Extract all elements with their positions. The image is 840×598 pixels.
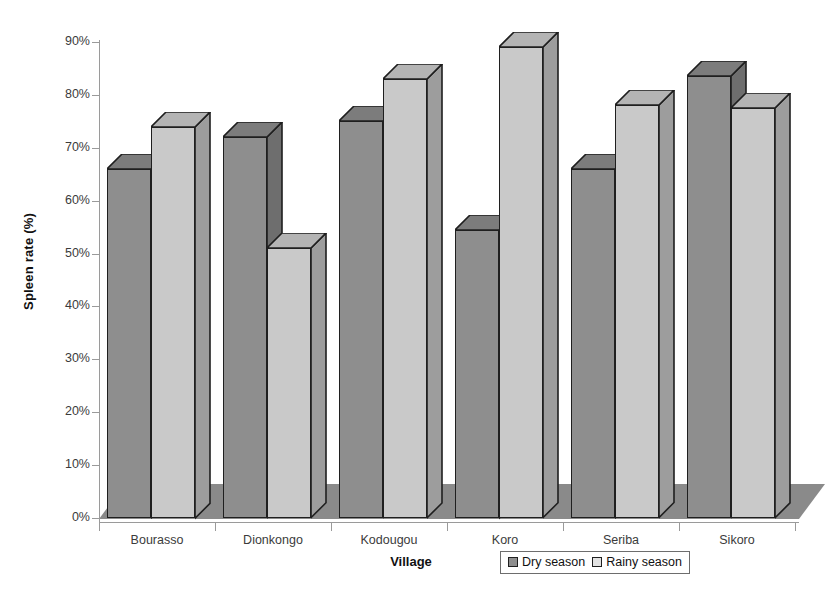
y-axis-tick <box>92 518 100 519</box>
y-axis-tick-label: 20% <box>30 404 90 418</box>
legend-item-rainy-season: Rainy season <box>592 555 682 569</box>
bar-front-face <box>267 248 311 518</box>
bar-front-face <box>339 121 383 518</box>
x-axis-tick-label: Dionkongo <box>213 533 333 547</box>
x-axis-tick-label: Koro <box>445 533 565 547</box>
bar-rainy-season <box>615 90 659 518</box>
x-axis-tick-label: Seriba <box>561 533 681 547</box>
bar-side-face <box>427 64 444 520</box>
y-axis-tick <box>92 148 100 149</box>
bar-dry-season <box>571 154 615 518</box>
x-axis-tick <box>563 522 564 531</box>
x-axis-tick-label: Kodougou <box>329 533 449 547</box>
bar-dry-season <box>107 154 151 518</box>
y-axis-tick-label: 50% <box>30 246 90 260</box>
legend-swatch-rainy-season <box>592 557 602 567</box>
bar-dry-season <box>223 122 267 518</box>
bar-rainy-season <box>731 93 775 518</box>
y-axis-tick <box>92 95 100 96</box>
bar-front-face <box>107 169 151 518</box>
chart-legend: Dry season Rainy season <box>500 551 690 574</box>
legend-label-rainy-season: Rainy season <box>606 555 682 569</box>
x-axis-tick <box>215 522 216 531</box>
y-axis-tick <box>92 42 100 43</box>
y-axis-tick <box>92 412 100 413</box>
x-axis-title: Village <box>336 554 486 569</box>
x-axis-tick-label: Bourasso <box>97 533 217 547</box>
y-axis-tick-label: 0% <box>30 510 90 524</box>
x-axis-tick-label: Sikoro <box>677 533 797 547</box>
y-axis-tick <box>92 359 100 360</box>
bar-front-face <box>731 108 775 518</box>
bar-dry-season <box>455 215 499 518</box>
bar-rainy-season <box>267 233 311 518</box>
y-axis-tick-label: 40% <box>30 298 90 312</box>
bar-side-face <box>311 233 328 520</box>
bar-side-face <box>195 112 212 520</box>
bar-front-face <box>223 137 267 518</box>
y-axis-line <box>99 40 100 522</box>
x-axis-tick <box>679 522 680 531</box>
bar-front-face <box>499 47 543 518</box>
x-axis-tick <box>447 522 448 531</box>
y-axis-tick-label: 10% <box>30 457 90 471</box>
bar-front-face <box>383 79 427 518</box>
bar-side-face <box>543 32 560 520</box>
bar-rainy-season <box>499 32 543 518</box>
bar-side-face <box>659 90 676 520</box>
y-axis-tick <box>92 201 100 202</box>
spleen-rate-bar-chart: Spleen rate (%) 0%10%20%30%40%50%60%70%8… <box>0 0 840 598</box>
x-axis-tick <box>331 522 332 531</box>
y-axis-tick-label: 80% <box>30 87 90 101</box>
bar-front-face <box>687 76 731 518</box>
y-axis-tick <box>92 254 100 255</box>
bar-dry-season <box>687 61 731 518</box>
y-axis-tick-label: 30% <box>30 351 90 365</box>
bar-front-face <box>151 127 195 518</box>
legend-swatch-dry-season <box>508 557 518 567</box>
legend-label-dry-season: Dry season <box>522 555 585 569</box>
y-axis-tick <box>92 465 100 466</box>
bar-rainy-season <box>383 64 427 518</box>
bar-front-face <box>455 230 499 518</box>
y-axis-tick-label: 60% <box>30 193 90 207</box>
bar-rainy-season <box>151 112 195 518</box>
x-axis-tick <box>795 522 796 531</box>
x-axis-line <box>99 522 799 523</box>
bar-side-face <box>775 93 792 520</box>
y-axis-tick-label: 70% <box>30 140 90 154</box>
bar-front-face <box>571 169 615 518</box>
bar-front-face <box>615 105 659 518</box>
y-axis-tick-label: 90% <box>30 34 90 48</box>
x-axis-tick <box>99 522 100 531</box>
legend-item-dry-season: Dry season <box>508 555 585 569</box>
y-axis-tick <box>92 306 100 307</box>
bar-dry-season <box>339 106 383 518</box>
